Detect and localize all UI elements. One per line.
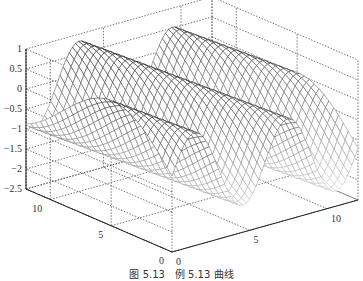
z-tick-label: −1.5 bbox=[4, 143, 22, 154]
z-tick-label: −0.5 bbox=[4, 103, 22, 114]
z-tick-label: −2.5 bbox=[4, 183, 22, 194]
z-tick-label: −1 bbox=[11, 123, 22, 134]
y-tick-label: 0 bbox=[159, 255, 164, 266]
mesh-plot-3d: 10.50−0.5−1−1.5−2−2.505100510 bbox=[0, 0, 363, 266]
z-tick-label: 0.5 bbox=[10, 63, 23, 74]
z-tick-label: −2 bbox=[11, 163, 22, 174]
z-tick-label: 0 bbox=[17, 83, 22, 94]
y-tick-label: 5 bbox=[98, 229, 103, 240]
z-tick-label: 1 bbox=[17, 43, 22, 54]
figure-caption: 图 5.13 例 5.13 曲线 bbox=[0, 266, 363, 281]
x-tick-label: 10 bbox=[331, 213, 341, 224]
y-tick-label: 10 bbox=[32, 203, 42, 214]
surface-mesh bbox=[26, 27, 358, 206]
x-tick-label: 0 bbox=[176, 256, 181, 266]
x-tick-label: 5 bbox=[254, 234, 259, 245]
